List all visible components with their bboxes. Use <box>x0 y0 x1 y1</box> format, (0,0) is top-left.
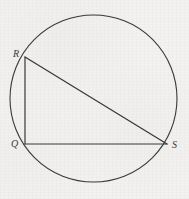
geometry-drawing <box>0 0 189 199</box>
vertex-label-Q: Q <box>11 139 18 149</box>
side-SR <box>25 57 167 144</box>
geometry-figure: R Q S <box>0 0 189 199</box>
vertex-label-S: S <box>172 140 177 150</box>
vertex-label-R: R <box>13 49 19 59</box>
